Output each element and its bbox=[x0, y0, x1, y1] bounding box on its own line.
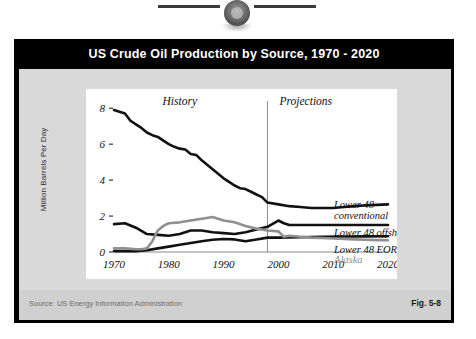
x-axis-tick-label: 1970 bbox=[103, 258, 126, 270]
y-axis-tick-label: 2 bbox=[100, 210, 106, 222]
y-axis-tick-label: 4 bbox=[100, 174, 106, 186]
figure-footer: Source: US Energy Information Administra… bbox=[19, 290, 451, 320]
figure-frame: US Crude Oil Production by Source, 1970 … bbox=[14, 39, 454, 323]
x-axis-tick-label: 1980 bbox=[158, 258, 181, 270]
line-chart: 02468 197019801990200020102020 History P… bbox=[86, 89, 397, 279]
emblem-shadow bbox=[222, 24, 252, 32]
chart-plot-area: 02468 197019801990200020102020 History P… bbox=[86, 89, 397, 279]
figure-body: Million Barrels Per Day 02468 1970198019… bbox=[19, 69, 451, 320]
y-axis-tick-label: 6 bbox=[100, 138, 106, 150]
y-axis-tick-label: 0 bbox=[100, 246, 106, 258]
page-title: US Crude Oil Production by Source, 1970 … bbox=[15, 47, 453, 61]
header-rule-right bbox=[254, 5, 316, 8]
annotation-history: History bbox=[162, 95, 198, 108]
series-label-lower48-conventional-line2: conventional bbox=[334, 210, 388, 221]
series-label-lower48-conventional-line1: Lower 48 bbox=[333, 199, 375, 210]
x-axis-tick-label: 2000 bbox=[267, 258, 290, 270]
chart-series-lower-48-conventional bbox=[114, 110, 388, 208]
annotation-projections: Projections bbox=[279, 95, 333, 108]
y-axis-ticks: 02468 bbox=[100, 102, 114, 258]
figure-number: Fig. 5-8 bbox=[411, 298, 441, 308]
header-rule-left bbox=[158, 5, 220, 8]
circular-seal-emblem-inner-icon bbox=[231, 7, 243, 19]
page-top-emblem-strip bbox=[0, 0, 476, 32]
series-label-alaska: Alaska bbox=[333, 254, 363, 265]
x-axis-tick-label: 1990 bbox=[213, 258, 236, 270]
x-axis-tick-label: 2020 bbox=[377, 258, 397, 270]
y-axis-title: Million Barrels Per Day bbox=[39, 100, 48, 240]
source-attribution: Source: US Energy Information Administra… bbox=[29, 299, 182, 308]
series-label-lower48-offshore: Lower 48 offshore bbox=[333, 227, 397, 238]
figure-title-bar: US Crude Oil Production by Source, 1970 … bbox=[15, 40, 453, 69]
y-axis-tick-label: 8 bbox=[100, 102, 106, 114]
